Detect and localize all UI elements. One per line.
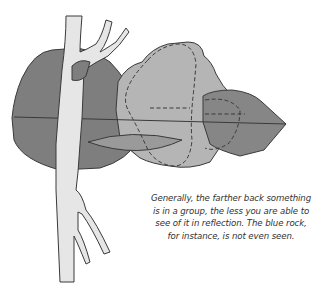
illustration-canvas: Generally, the farther back something is…	[0, 0, 315, 289]
caption-line-4: for instance, is not even seen.	[148, 230, 314, 243]
caption-line-2: is in a group, the less you are able to	[148, 205, 314, 218]
rock-reflection-drawing	[0, 0, 315, 289]
caption-line-1: Generally, the farther back something	[148, 192, 314, 205]
caption: Generally, the farther back something is…	[148, 192, 314, 242]
caption-line-3: see of it in reflection. The blue rock,	[148, 217, 314, 230]
